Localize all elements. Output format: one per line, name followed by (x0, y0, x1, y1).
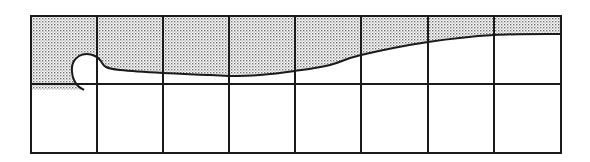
wave-grid-diagram (0, 0, 590, 162)
